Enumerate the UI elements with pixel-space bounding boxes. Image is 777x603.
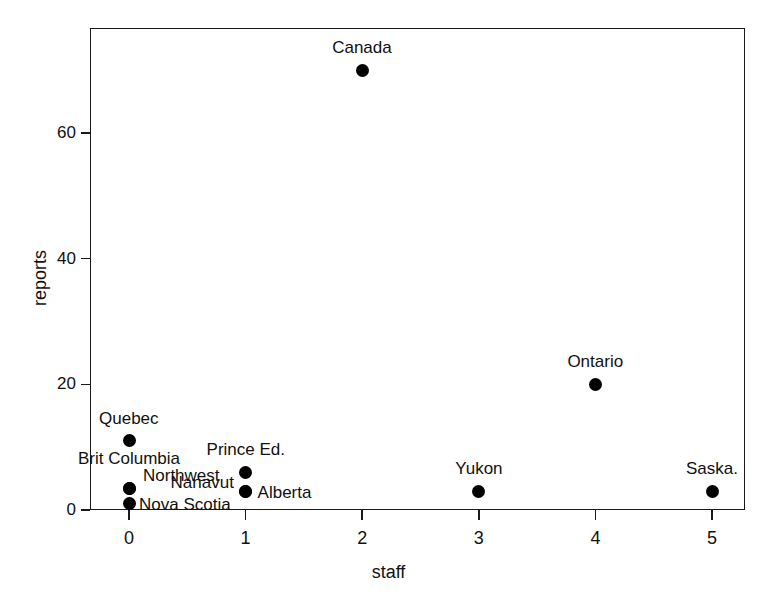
y-tick-mark	[81, 132, 90, 134]
x-tick-mark	[361, 510, 363, 520]
x-tick-mark	[595, 510, 597, 520]
data-point	[239, 485, 252, 498]
data-point	[239, 466, 252, 479]
data-point	[123, 434, 136, 447]
x-tick-label: 2	[342, 528, 382, 548]
scatter-plot-figure: 0204060 012345 CanadaOntarioQuebecPrince…	[0, 0, 777, 603]
data-point-label: Prince Ed.	[207, 441, 285, 459]
y-tick-label: 0	[28, 501, 76, 518]
data-point-label: Alberta	[258, 484, 312, 502]
data-point-label: Saska.	[686, 460, 738, 478]
data-point-label: Nova Scotia	[139, 496, 231, 514]
x-tick-mark	[128, 510, 130, 520]
data-point-label: Canada	[332, 39, 392, 57]
y-tick-mark	[81, 509, 90, 511]
data-point	[123, 497, 136, 510]
data-point-label: Yukon	[455, 460, 502, 478]
y-tick-label-wrap: 20	[28, 375, 76, 392]
y-tick-mark	[81, 384, 90, 386]
y-tick-label: 60	[28, 124, 76, 141]
x-tick-label: 0	[109, 528, 149, 548]
data-point	[123, 482, 136, 495]
y-axis-title: reports	[30, 218, 50, 338]
x-tick-label: 3	[459, 528, 499, 548]
x-axis-title: staff	[0, 562, 777, 582]
x-tick-mark	[711, 510, 713, 520]
data-point-label: Ontario	[567, 353, 623, 371]
y-tick-label: 20	[28, 375, 76, 392]
x-tick-mark	[245, 510, 247, 520]
data-point-label: Nanavut	[171, 474, 234, 492]
y-tick-label-wrap: 0	[28, 501, 76, 518]
data-point	[589, 378, 602, 391]
x-tick-mark	[478, 510, 480, 520]
data-point-label: Quebec	[99, 410, 159, 428]
x-tick-label: 1	[226, 528, 266, 548]
data-point	[472, 485, 485, 498]
y-tick-mark	[81, 258, 90, 260]
x-tick-label: 5	[692, 528, 732, 548]
data-point	[706, 485, 719, 498]
x-tick-label: 4	[575, 528, 615, 548]
data-point	[356, 64, 369, 77]
plot-area	[90, 28, 745, 510]
y-tick-label-wrap: 60	[28, 124, 76, 141]
